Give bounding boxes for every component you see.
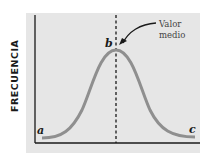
diagram-svg: FRECUENCIA b a c Valor medio [0, 0, 208, 154]
y-axis-label: FRECUENCIA [9, 40, 20, 112]
annotation-line2: medio [159, 30, 185, 40]
normal-distribution-diagram: FRECUENCIA b a c Valor medio [0, 0, 208, 154]
annotation-line1: Valor [158, 19, 182, 29]
point-label-a: a [37, 124, 44, 137]
point-label-c: c [189, 123, 196, 136]
point-label-b: b [105, 37, 113, 50]
